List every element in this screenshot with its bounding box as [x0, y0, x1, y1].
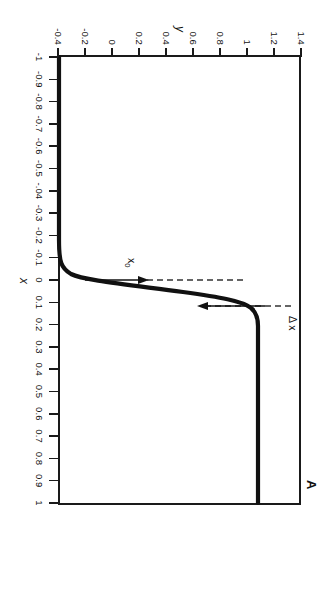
- y-axis-tick: [192, 48, 194, 57]
- x-axis-tick: [49, 324, 58, 326]
- y-axis-tick: [111, 48, 113, 57]
- x-axis-tick-label: 0.1: [34, 296, 45, 310]
- y-axis-tick-label: -0.4: [53, 5, 64, 45]
- x-axis-tick-label: 0.7: [34, 429, 45, 443]
- x-axis-tick-label: -1: [34, 53, 45, 62]
- x-axis-tick-label: 0.9: [34, 474, 45, 488]
- x-axis-tick-label: 0.8: [34, 452, 45, 466]
- x-axis-tick-label: 1: [34, 500, 45, 505]
- y-axis-tick-label: 1.4: [296, 5, 307, 45]
- x-axis-tick: [49, 123, 58, 125]
- y-axis-title: y: [173, 26, 187, 32]
- y-axis-tick-label: 1: [242, 5, 253, 45]
- x-axis-tick-label: -0.1: [34, 249, 45, 266]
- y-axis-tick-label: 0.2: [134, 5, 145, 45]
- x0-label: x0: [123, 258, 138, 267]
- x-axis-tick-label: 0: [34, 277, 45, 282]
- x-axis-tick: [49, 190, 58, 192]
- y-axis-tick: [138, 48, 140, 57]
- y-axis-tick-label: 1.2: [269, 5, 280, 45]
- x-axis-tick: [49, 413, 58, 415]
- x-axis-tick: [49, 79, 58, 81]
- x-axis-tick: [49, 502, 58, 504]
- x-axis-tick-label: -0.5: [34, 160, 45, 177]
- x-axis-tick-label: 0.6: [34, 407, 45, 421]
- y-axis-tick-label: 0.6: [188, 5, 199, 45]
- x-axis-tick-label: -0.6: [34, 138, 45, 155]
- y-axis-tick: [273, 48, 275, 57]
- x-axis-title: x: [17, 278, 31, 284]
- y-axis-tick: [300, 48, 302, 57]
- x-axis-tick-label: 0.5: [34, 385, 45, 399]
- x-axis-tick: [49, 368, 58, 370]
- x0-label-subscript: 0: [123, 263, 132, 267]
- x-axis-tick: [49, 458, 58, 460]
- x-axis-tick: [49, 212, 58, 214]
- x-axis-tick: [49, 257, 58, 259]
- y-axis-tick: [246, 48, 248, 57]
- plot-graphics: [0, 0, 323, 595]
- x-axis-tick: [49, 346, 58, 348]
- x-axis-tick-label: -0.2: [34, 227, 45, 244]
- y-axis-tick: [219, 48, 221, 57]
- x-axis-tick: [49, 302, 58, 304]
- figure-canvas: A Δ x x0 -1-0.9-0.8-0.7-0.6-0.5-.04-0.3-…: [0, 0, 323, 595]
- x-axis-tick-label: -0.8: [34, 93, 45, 110]
- x-axis-tick-label: 0.4: [34, 362, 45, 376]
- delta-x-label: Δ x: [287, 316, 299, 331]
- y-axis-tick-label: 0: [107, 5, 118, 45]
- x-axis-tick-label: -.04: [34, 182, 45, 199]
- y-axis-tick-label: -0.2: [80, 5, 91, 45]
- x-axis-tick: [49, 435, 58, 437]
- x-axis-tick: [49, 480, 58, 482]
- x-axis-tick: [49, 145, 58, 147]
- y-axis-tick-label: 0.8: [215, 5, 226, 45]
- x-axis-tick: [49, 168, 58, 170]
- x-axis-tick-label: -0.9: [34, 71, 45, 88]
- x-axis-tick-label: 0.2: [34, 318, 45, 332]
- y-axis-tick: [165, 48, 167, 57]
- x-axis-tick: [49, 235, 58, 237]
- x-axis-tick: [49, 101, 58, 103]
- x-axis-tick-label: 0.3: [34, 340, 45, 354]
- x-axis-tick-label: -0.3: [34, 205, 45, 222]
- x-axis-tick-label: -0.7: [34, 116, 45, 133]
- y-axis-tick: [57, 48, 59, 57]
- y-axis-tick: [84, 48, 86, 57]
- x-axis-tick: [49, 391, 58, 393]
- x-axis-tick: [49, 279, 58, 281]
- y-axis-tick-label: 0.4: [161, 5, 172, 45]
